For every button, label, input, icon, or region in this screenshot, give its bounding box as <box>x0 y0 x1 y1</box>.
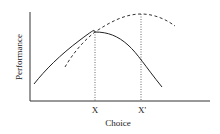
solid-performance-curve <box>34 30 162 87</box>
dashed-performance-curve <box>65 14 175 67</box>
performance-choice-diagram: X X' Choice Performance <box>0 0 220 134</box>
xprime-tick-label: X' <box>138 105 146 115</box>
x-axis-label: Choice <box>105 118 131 128</box>
x-tick-label: X <box>92 105 99 115</box>
y-axis-label: Performance <box>14 34 24 80</box>
